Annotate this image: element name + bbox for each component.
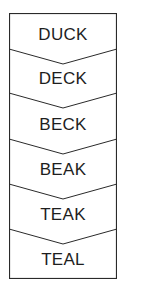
word-ladder: DUCK DECK BECK BEAK TEAK TEAL (9, 13, 117, 279)
ladder-word-1: DUCK (9, 25, 117, 45)
ladder-word-3: BECK (9, 115, 117, 135)
ladder-word-5: TEAK (9, 205, 117, 225)
ladder-word-4: BEAK (9, 160, 117, 180)
ladder-word-2: DECK (9, 69, 117, 89)
ladder-word-6: TEAL (9, 250, 117, 270)
ladder-frame (9, 13, 117, 279)
